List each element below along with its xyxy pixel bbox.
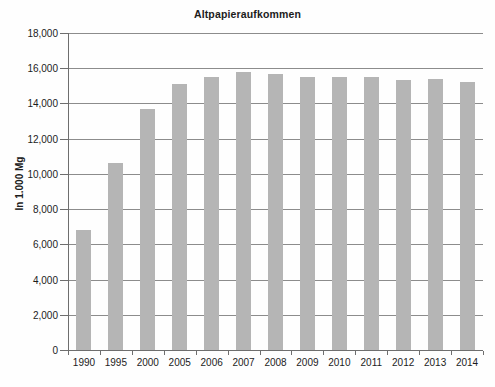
y-axis-tick: [60, 33, 68, 34]
y-axis-tick-label: 8,000: [2, 204, 58, 215]
y-axis-tick: [60, 174, 68, 175]
bar-chart-figure: Altpapieraufkommen In 1.000 Mg 02,0004,0…: [0, 0, 495, 387]
bar-1990: [76, 230, 91, 350]
y-axis-tick: [60, 139, 68, 140]
x-axis-tick: [323, 351, 324, 355]
x-axis-tick: [228, 351, 229, 355]
x-axis-tick: [100, 351, 101, 355]
y-axis-tick-label: 12,000: [2, 133, 58, 144]
x-axis-tick: [451, 351, 452, 355]
x-axis-tick-label: 2006: [201, 357, 223, 368]
x-axis-tick-label: 2012: [392, 357, 414, 368]
y-axis-tick: [60, 350, 68, 351]
y-axis-tick: [60, 244, 68, 245]
bar-2008: [268, 74, 283, 350]
y-axis-tick-label: 14,000: [2, 98, 58, 109]
x-axis-tick: [132, 351, 133, 355]
x-axis-tick: [164, 351, 165, 355]
x-axis-tick: [419, 351, 420, 355]
x-axis-tick-label: 2000: [137, 357, 159, 368]
y-axis-tick: [60, 315, 68, 316]
y-axis-tick: [60, 209, 68, 210]
bar-2012: [396, 80, 411, 350]
x-axis-tick: [68, 351, 69, 355]
y-axis-tick-label: 10,000: [2, 168, 58, 179]
y-axis-tick: [60, 103, 68, 104]
x-axis-ticks: [68, 351, 483, 356]
bar-2005: [172, 84, 187, 350]
x-axis-tick-label: 1995: [105, 357, 127, 368]
x-axis-tick: [387, 351, 388, 355]
x-axis-tick: [260, 351, 261, 355]
bar-2013: [428, 79, 443, 350]
y-axis-tick-label: 18,000: [2, 28, 58, 39]
x-axis-tick-labels: 1990199520002005200620072008200920102011…: [68, 357, 483, 373]
x-axis-tick: [196, 351, 197, 355]
bar-2007: [236, 72, 251, 350]
y-axis-tick-label: 16,000: [2, 63, 58, 74]
x-axis-tick-label: 1990: [73, 357, 95, 368]
y-axis-tick-label: 4,000: [2, 274, 58, 285]
bar-2000: [140, 109, 155, 350]
x-axis-tick-label: 2008: [264, 357, 286, 368]
x-axis-tick-label: 2011: [361, 357, 383, 368]
x-axis-tick-label: 2007: [232, 357, 254, 368]
y-axis-tick: [60, 68, 68, 69]
x-axis-tick: [483, 351, 484, 355]
y-axis-tick-label: 2,000: [2, 309, 58, 320]
bar-2011: [364, 77, 379, 350]
x-axis-tick-label: 2005: [169, 357, 191, 368]
bar-2009: [300, 77, 315, 350]
x-axis-tick-label: 2013: [424, 357, 446, 368]
bar-1995: [108, 163, 123, 350]
y-axis-tick-labels: 02,0004,0006,0008,00010,00012,00014,0001…: [0, 33, 58, 351]
chart-title: Altpapieraufkommen: [0, 8, 495, 20]
bar-2006: [204, 77, 219, 350]
y-axis-tick: [60, 280, 68, 281]
x-axis-tick-label: 2010: [328, 357, 350, 368]
y-axis-tick-label: 6,000: [2, 239, 58, 250]
bar-2010: [332, 77, 347, 350]
x-axis-tick: [355, 351, 356, 355]
x-axis-tick-label: 2009: [296, 357, 318, 368]
bar-2014: [460, 82, 475, 350]
bars-layer: [68, 33, 483, 350]
y-axis-tick-label: 0: [2, 345, 58, 356]
x-axis-tick: [291, 351, 292, 355]
x-axis-tick-label: 2014: [456, 357, 478, 368]
